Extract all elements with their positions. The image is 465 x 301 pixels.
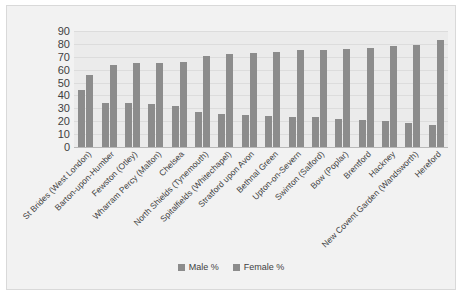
bar-male (195, 112, 202, 147)
bar-female (320, 50, 327, 147)
legend-swatch-icon (178, 264, 185, 271)
chart-legend: Male %Female % (0, 262, 462, 272)
bar-male (312, 117, 319, 147)
bar-female (180, 62, 187, 147)
bar-male (429, 125, 436, 147)
y-axis-tick-label: 70 (58, 51, 70, 62)
y-axis-tick-label: 80 (58, 38, 70, 49)
bar-female (273, 52, 280, 147)
bar-female (367, 48, 374, 147)
bar-male (359, 120, 366, 147)
x-axis-line (74, 147, 448, 148)
y-axis-tick-label: 20 (58, 116, 70, 127)
bar-male (289, 117, 296, 147)
bar-female (86, 75, 93, 147)
y-axis-tick-label: 50 (58, 77, 70, 88)
y-axis-tick-label: 30 (58, 103, 70, 114)
legend-label: Female % (244, 262, 285, 272)
bar-male (78, 90, 85, 147)
bar-female (133, 63, 140, 147)
bar-female (110, 65, 117, 147)
y-axis-tick-label: 90 (58, 26, 70, 37)
bar-female (297, 50, 304, 147)
legend-swatch-icon (233, 264, 240, 271)
bar-female (203, 56, 210, 148)
bar-male (125, 103, 132, 147)
legend-label: Male % (189, 262, 219, 272)
y-axis-tick-label: 60 (58, 64, 70, 75)
bar-female (343, 49, 350, 147)
y-axis-tick-label: 10 (58, 129, 70, 140)
chart-container: 9080706050403020100 St Brides (West Lond… (0, 0, 465, 301)
bar-male (405, 123, 412, 147)
bar-female (437, 40, 444, 147)
bar-female (413, 45, 420, 147)
y-axis-tick-labels: 9080706050403020100 (40, 31, 70, 147)
bar-male (148, 104, 155, 147)
bar-male (382, 121, 389, 147)
bar-female (250, 53, 257, 147)
bar-female (156, 63, 163, 147)
bar-male (265, 116, 272, 147)
bar-male (172, 106, 179, 147)
bar-female (226, 54, 233, 147)
bar-male (218, 114, 225, 148)
bar-male (335, 119, 342, 147)
bars-layer (74, 31, 448, 147)
bar-male (242, 115, 249, 147)
bar-male (102, 103, 109, 147)
x-axis-tick-labels: St Brides (West London)Barton-upon-Humbe… (74, 149, 448, 259)
y-axis-tick-label: 0 (64, 142, 70, 153)
legend-item[interactable]: Female % (233, 262, 285, 272)
bar-female (390, 46, 397, 147)
legend-item[interactable]: Male % (178, 262, 219, 272)
y-axis-tick-label: 40 (58, 90, 70, 101)
